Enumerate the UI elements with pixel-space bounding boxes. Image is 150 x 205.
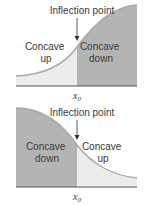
- inflection-point-label: Inflection point: [50, 107, 115, 118]
- inflection-diagram: Inflection point Concave up Concave down…: [0, 0, 150, 205]
- x0-label: x0: [72, 191, 81, 204]
- bottom-panel: Inflection point Concave down Concave up…: [16, 107, 137, 204]
- x0-label: x0: [72, 90, 81, 103]
- left-region-label: Concave up: [25, 41, 67, 64]
- arrow-down-icon: [75, 135, 80, 140]
- arrow-down-icon: [75, 36, 80, 41]
- top-panel: Inflection point Concave up Concave down…: [16, 5, 137, 103]
- inflection-point-label: Inflection point: [50, 5, 115, 16]
